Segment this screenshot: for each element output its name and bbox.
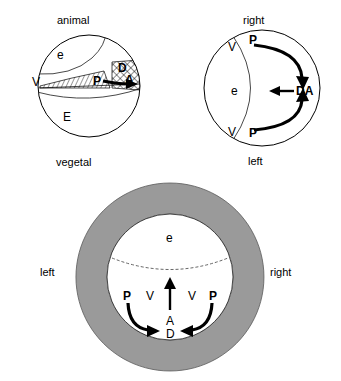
label-posterior-left: P bbox=[123, 289, 131, 303]
label-posterior-lower: P bbox=[249, 126, 257, 140]
label-ventral-upper: V bbox=[228, 40, 236, 54]
panel-animal-pole-view: right left V V e P P DA bbox=[204, 14, 320, 167]
label-ventral-lateral: V bbox=[32, 75, 40, 89]
label-dorsal-anterior: DA bbox=[296, 84, 314, 98]
label-vegetal: vegetal bbox=[56, 156, 91, 168]
label-dorsal-vegetal: D bbox=[166, 327, 175, 341]
label-right-vegetal: right bbox=[270, 266, 291, 278]
label-ventral-right: V bbox=[188, 289, 196, 303]
panel-lateral-view: animal vegetal V e E P D A bbox=[32, 14, 142, 168]
figure-root: animal vegetal V e E P D A bbox=[0, 0, 341, 381]
label-anterior-lateral: A bbox=[125, 73, 134, 87]
label-ectoderm-lateral: e bbox=[57, 48, 64, 62]
label-anterior-vegetal: A bbox=[166, 314, 174, 328]
label-posterior-right: P bbox=[209, 289, 217, 303]
label-right-animal-pole: right bbox=[243, 14, 264, 26]
label-ectoderm-animal-pole: e bbox=[231, 84, 238, 98]
label-ventral-lower: V bbox=[228, 125, 236, 139]
embryo-axis-diagram: animal vegetal V e E P D A bbox=[0, 0, 341, 381]
ectoderm-boundary bbox=[36, 31, 106, 74]
arrow-da-to-left bbox=[269, 86, 294, 96]
label-posterior-upper: P bbox=[249, 33, 257, 47]
label-endoderm-lateral: E bbox=[63, 110, 71, 124]
endoderm-boundary bbox=[37, 88, 142, 98]
label-ectoderm-vegetal: e bbox=[166, 231, 173, 245]
label-left-animal-pole: left bbox=[248, 155, 263, 167]
label-left-vegetal: left bbox=[40, 266, 55, 278]
panel-vegetal-pole-view: left right e P V V P A D bbox=[40, 183, 291, 371]
label-ventral-left: V bbox=[146, 289, 154, 303]
label-animal: animal bbox=[57, 14, 89, 26]
label-posterior-lateral: P bbox=[93, 74, 101, 88]
